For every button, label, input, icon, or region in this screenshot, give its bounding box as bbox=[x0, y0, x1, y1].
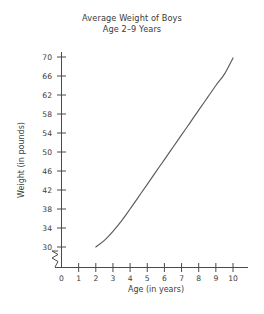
y-tick-label: 38 bbox=[42, 205, 52, 214]
y-tick-label: 54 bbox=[42, 129, 52, 138]
y-tick-label: 58 bbox=[42, 110, 52, 119]
weight-chart: Average Weight of Boys Age 2–9 Years 303… bbox=[0, 0, 264, 314]
x-tick-label: 4 bbox=[128, 274, 133, 283]
x-axis: 012345678910 bbox=[55, 263, 248, 283]
x-axis-title: Age (in years) bbox=[128, 285, 184, 294]
y-tick-label: 34 bbox=[42, 224, 52, 233]
chart-canvas: 3034384246505458626670 012345678910 Age … bbox=[0, 0, 264, 314]
y-tick-label: 62 bbox=[42, 91, 52, 100]
x-tick-label: 1 bbox=[76, 274, 81, 283]
y-axis: 3034384246505458626670 bbox=[42, 52, 66, 267]
x-tick-label: 9 bbox=[213, 274, 218, 283]
x-tick-label: 3 bbox=[111, 274, 116, 283]
y-tick-label: 30 bbox=[42, 243, 52, 252]
x-tick-label: 8 bbox=[196, 274, 201, 283]
y-tick-label: 46 bbox=[42, 167, 52, 176]
y-tick-group: 3034384246505458626670 bbox=[42, 53, 66, 252]
x-tick-label: 10 bbox=[228, 274, 238, 283]
x-tick-label: 7 bbox=[179, 274, 184, 283]
x-tick-label: 2 bbox=[93, 274, 98, 283]
y-tick-label: 50 bbox=[42, 148, 52, 157]
weight-curve bbox=[96, 58, 233, 247]
y-axis-title: Weight (in pounds) bbox=[17, 122, 26, 198]
y-tick-label: 66 bbox=[42, 72, 52, 81]
x-tick-label: 6 bbox=[162, 274, 167, 283]
x-tick-group: 012345678910 bbox=[59, 263, 238, 283]
y-axis-break-icon bbox=[52, 251, 58, 267]
x-tick-label: 5 bbox=[145, 274, 150, 283]
x-tick-label: 0 bbox=[59, 274, 64, 283]
y-tick-label: 70 bbox=[42, 53, 52, 62]
y-tick-label: 42 bbox=[42, 186, 52, 195]
